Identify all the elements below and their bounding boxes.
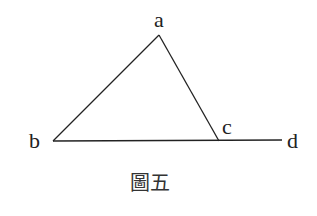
label-b: b	[29, 128, 40, 153]
label-c: c	[222, 114, 232, 139]
label-a: a	[154, 7, 164, 32]
triangle-diagram: a b c d 圖五	[0, 0, 317, 216]
segment-ab	[53, 35, 159, 141]
figure-caption: 圖五	[130, 171, 170, 195]
segment-ac	[159, 35, 219, 141]
segment-bd	[53, 140, 282, 141]
label-d: d	[287, 128, 298, 153]
